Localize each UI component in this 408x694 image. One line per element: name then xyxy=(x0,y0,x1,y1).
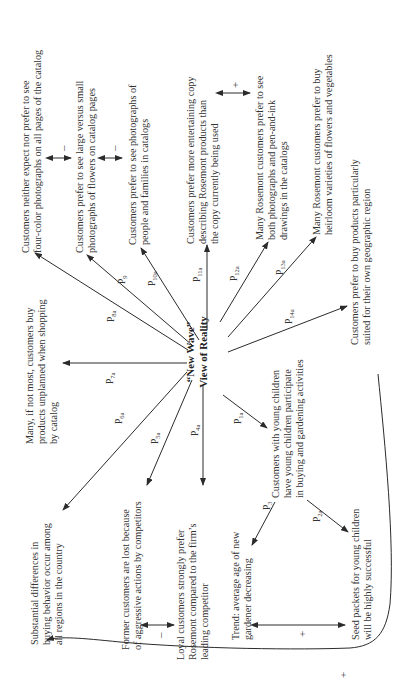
node-text-line: Customers prefer to see large versus sma… xyxy=(74,81,86,253)
label-p6a: P6a xyxy=(114,413,125,424)
node-text-line: have young children participate xyxy=(282,359,294,498)
node-text-line: Substantial differences in xyxy=(29,523,41,645)
label-p8a: P8a xyxy=(106,311,117,322)
node-text-line: by catalog xyxy=(48,299,60,444)
node-text-line: leading competitor xyxy=(199,524,211,660)
node-text-line: will be highly successful xyxy=(362,509,374,640)
node-geographic: Customers prefer to buy products particu… xyxy=(349,159,373,345)
node-text-line: Customers prefer more entertaining copy xyxy=(185,77,197,244)
node-seed-packets: Seed packets for young children will be … xyxy=(350,509,374,640)
arrow-p6a xyxy=(63,372,187,510)
node-text-line: Customers prefer to see photographs of xyxy=(127,85,139,245)
node-text-line: both photographs and pen-and-ink xyxy=(266,76,278,240)
center-line-1: “New Wave” xyxy=(184,307,197,397)
node-young-children: Customers with young children have young… xyxy=(270,359,307,498)
label-p1a: P1a xyxy=(233,413,244,424)
node-text-line: Rosemont compared to the firm’s xyxy=(187,524,199,660)
node-text-line: Seed packets for young children xyxy=(350,509,362,640)
node-text-line: products unplanned when shopping xyxy=(36,299,48,444)
sign-four-color-large: – xyxy=(57,146,69,152)
node-text-line: Many, if not most, customers buy xyxy=(24,299,36,444)
node-four-color: Customers neither expect nor prefer to s… xyxy=(20,50,44,253)
label-p14a: P14a xyxy=(284,309,295,324)
concept-map-diagram: “New Wave” View of Reality Customers nei… xyxy=(0,0,408,694)
node-text-line: photographs of flowers on catalog pages xyxy=(86,81,98,253)
sign-copy-penink: + xyxy=(229,82,241,88)
center-node: “New Wave” View of Reality xyxy=(184,307,210,397)
sign-large-people: – xyxy=(108,146,120,152)
node-text-line: Many Rosemont customers prefer to see xyxy=(254,76,266,240)
label-p5a: P5a xyxy=(150,433,161,444)
node-large-photos: Customers prefer to see large versus sma… xyxy=(74,81,98,253)
arrow-p12a xyxy=(220,242,268,322)
feedback-curve xyxy=(47,374,391,649)
node-unplanned: Many, if not most, customers buy product… xyxy=(24,299,61,444)
label-p10a: P10a xyxy=(147,271,158,286)
node-text-line: Customers prefer to buy products particu… xyxy=(349,159,361,345)
node-heirloom: Many Rosemont customers prefer to buy he… xyxy=(311,54,335,235)
sign-former-loyal: – xyxy=(154,633,166,639)
node-entertaining-copy: Customers prefer more entertaining copy … xyxy=(185,77,222,244)
node-text-line: drawings in the catalogs xyxy=(278,76,290,240)
node-text-line: of aggressive actions by competitors xyxy=(132,501,144,650)
node-loyal-customers: Loyal customers strongly prefer Rosemont… xyxy=(175,524,212,660)
node-text-line: describing Rosemont products than xyxy=(197,77,209,244)
arrow-p1a xyxy=(223,395,267,428)
label-p9: P9 xyxy=(117,275,128,284)
label-p4a: P4a xyxy=(190,425,201,436)
node-people-photos: Customers prefer to see photographs of p… xyxy=(127,85,151,245)
label-p11a: P11a xyxy=(192,268,203,282)
node-text-line: all regions in the country xyxy=(53,523,65,645)
arrow-p9 xyxy=(87,255,192,345)
node-text-line: four-color photographs on all pages of t… xyxy=(32,50,44,253)
sign-feedback-loop: + xyxy=(337,672,349,678)
node-regional-differences: Substantial differences in buying behavi… xyxy=(29,523,66,645)
label-p13a: P13a xyxy=(275,260,286,275)
node-text-line: Trend: average age of new xyxy=(230,532,242,640)
node-text-line: Former customers are lost because xyxy=(120,501,132,650)
label-p2a: P2a xyxy=(312,511,323,522)
label-p7a: P7a xyxy=(105,373,116,384)
node-former-customers: Former customers are lost because of agg… xyxy=(120,501,144,650)
node-text-line: heirloom varieties of flowers and vegeta… xyxy=(323,54,335,235)
sign-trend-seed: + xyxy=(296,631,308,637)
node-text-line: the copy currently being used xyxy=(209,77,221,244)
node-text-line: buying behavior occur among xyxy=(41,523,53,645)
node-text-line: Many Rosemont customers prefer to buy xyxy=(311,54,323,235)
node-text-line: Customers with young children xyxy=(270,359,282,498)
node-text-line: Loyal customers strongly prefer xyxy=(175,524,187,660)
node-text-line: gardener decreasing xyxy=(242,532,254,640)
node-text-line: in buying and gardening activities xyxy=(294,359,306,498)
node-text-line: suited for their own geographic region xyxy=(361,159,373,345)
label-p3: P3 xyxy=(262,501,273,510)
node-text-line: Customers neither expect nor prefer to s… xyxy=(20,50,32,253)
node-trend-age: Trend: average age of new gardener decre… xyxy=(230,532,254,640)
center-line-2: View of Reality xyxy=(197,307,210,397)
label-p12a: P12a xyxy=(229,266,240,281)
node-text-line: people and families in catalogs xyxy=(139,85,151,245)
node-pen-and-ink: Many Rosemont customers prefer to see bo… xyxy=(254,76,291,240)
